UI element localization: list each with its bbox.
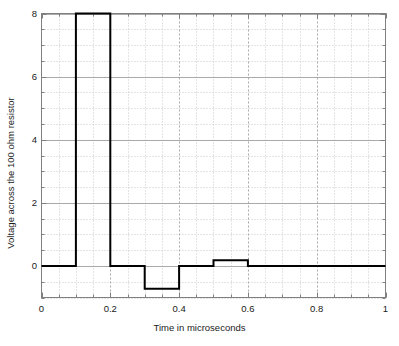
x-tick-label: 1 xyxy=(383,304,388,314)
chart-figure: 02468 00.20.40.60.81 Time in microsecond… xyxy=(0,0,399,346)
x-tick-label: 0.8 xyxy=(310,304,323,314)
x-tick-label: 0.2 xyxy=(104,304,117,314)
y-tick-label: 8 xyxy=(20,9,37,19)
y-tick-label: 4 xyxy=(20,135,37,145)
x-axis-title: Time in microseconds xyxy=(0,322,399,333)
y-axis-title: Voltage across the 100 ohm resistor xyxy=(3,0,19,346)
x-tick-label: 0.4 xyxy=(172,304,185,314)
minor-gridlines xyxy=(42,14,386,299)
y-tick-label: 2 xyxy=(20,198,37,208)
voltage-waveform xyxy=(42,14,386,289)
y-tick-label: 0 xyxy=(20,261,37,271)
y-tick-label: 6 xyxy=(20,72,37,82)
plot-canvas xyxy=(0,0,399,346)
x-tick-label: 0 xyxy=(39,304,44,314)
x-tick-label: 0.6 xyxy=(241,304,254,314)
